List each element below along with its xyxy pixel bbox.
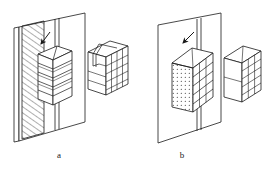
panel-b-caption: b [172, 150, 192, 160]
panel-b [158, 13, 261, 143]
attached-block-a [38, 46, 72, 105]
detached-block-b [224, 46, 261, 102]
panel-a [14, 13, 128, 142]
plate-a-side-face [14, 27, 19, 142]
figure-container: a b [0, 0, 271, 173]
detached-block-a [88, 41, 128, 95]
panel-a-caption: a [49, 150, 69, 160]
technical-diagram-svg [0, 0, 271, 173]
